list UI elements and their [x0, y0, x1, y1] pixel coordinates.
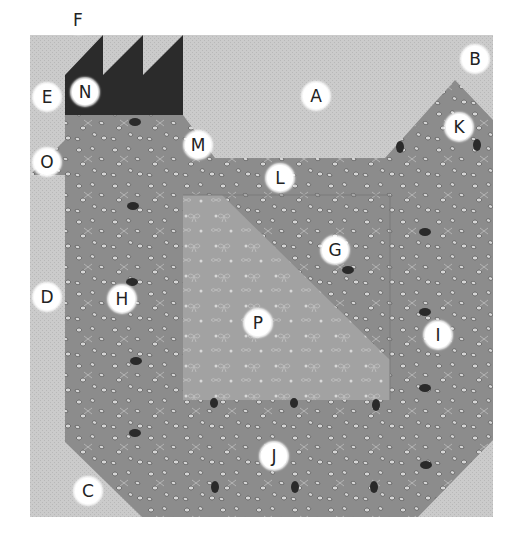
label-h: H	[109, 286, 135, 312]
label-o: O	[34, 149, 60, 175]
label-l: L	[267, 165, 293, 191]
quilt-block-diagram: F B E N A K M O L G D H P I J C	[0, 0, 523, 547]
label-c: C	[75, 478, 101, 504]
label-i: I	[425, 322, 451, 348]
label-n: N	[72, 79, 98, 105]
label-k: K	[446, 114, 472, 140]
label-b: B	[462, 46, 488, 72]
label-p: P	[245, 310, 271, 336]
label-j: J	[261, 443, 287, 469]
label-g: G	[322, 237, 348, 263]
label-a: A	[303, 83, 329, 109]
label-d: D	[34, 284, 60, 310]
label-f: F	[65, 7, 91, 33]
label-e: E	[34, 84, 60, 110]
label-m: M	[185, 132, 211, 158]
